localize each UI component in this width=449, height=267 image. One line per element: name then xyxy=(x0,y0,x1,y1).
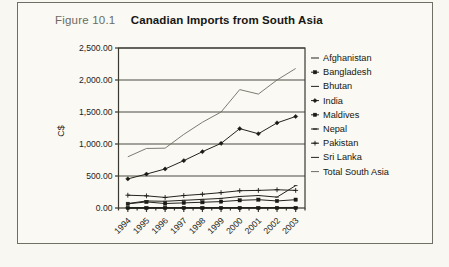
data-point-marker xyxy=(275,199,278,202)
legend-item[interactable]: India xyxy=(311,96,344,106)
x-axis-ticks: 1994199519961997199819992000200120022003 xyxy=(112,208,305,236)
data-point-marker xyxy=(126,177,130,181)
data-point-marker xyxy=(219,200,222,203)
data-point-marker xyxy=(313,141,318,146)
data-point-marker xyxy=(201,201,204,204)
data-point-marker xyxy=(163,167,167,171)
data-point-marker xyxy=(200,192,205,197)
legend-item[interactable]: Pakistan xyxy=(311,138,358,148)
chart-legend: AfghanistanBangladeshBhutanIndiaMaldives… xyxy=(311,53,390,177)
legend-label: Sri Lanka xyxy=(323,152,363,162)
figure-page: Figure 10.1 Canadian Imports from South … xyxy=(0,0,449,267)
x-tick-label: 1994 xyxy=(112,215,133,236)
x-tick-label: 2001 xyxy=(243,215,264,236)
data-point-marker xyxy=(182,201,185,204)
data-series xyxy=(125,187,298,199)
y-tick-label: 1,000.00 xyxy=(79,139,113,149)
plot-area-frame xyxy=(119,48,306,208)
x-tick-label: 1999 xyxy=(205,215,226,236)
legend-item[interactable]: Bhutan xyxy=(311,81,352,91)
data-point-marker xyxy=(275,121,279,125)
x-tick-label: 2000 xyxy=(224,215,245,236)
data-point-marker xyxy=(313,71,316,74)
legend-label: Bangladesh xyxy=(323,67,372,77)
legend-item[interactable]: Total South Asia xyxy=(311,167,390,177)
data-point-marker xyxy=(144,193,149,198)
legend-label: Afghanistan xyxy=(323,53,372,63)
data-point-marker xyxy=(275,187,280,192)
data-point-marker xyxy=(313,99,317,103)
data-point-marker xyxy=(182,159,186,163)
data-point-marker xyxy=(125,193,130,198)
data-point-marker xyxy=(219,190,224,195)
data-point-marker xyxy=(256,132,260,136)
x-tick-label: 1995 xyxy=(131,215,152,236)
chart-svg: 0.00500.001,000.001,500.002,000.002,500.… xyxy=(0,0,449,267)
legend-label: Nepal xyxy=(323,124,347,134)
data-point-marker xyxy=(181,193,186,198)
data-series xyxy=(126,114,298,181)
y-axis-title: C$ xyxy=(56,125,66,137)
y-tick-label: 0.00 xyxy=(96,203,113,213)
legend-label: India xyxy=(323,96,344,106)
data-point-marker xyxy=(294,114,298,118)
legend-label: Maldives xyxy=(323,110,360,120)
data-point-marker xyxy=(294,198,297,201)
data-point-marker xyxy=(256,188,261,193)
plot-frame xyxy=(119,48,306,208)
legend-item[interactable]: Bangladesh xyxy=(311,67,372,77)
x-tick-label: 1996 xyxy=(149,215,170,236)
data-point-marker xyxy=(257,198,260,201)
legend-label: Bhutan xyxy=(323,81,352,91)
x-tick-label: 2002 xyxy=(261,215,282,236)
legend-label: Pakistan xyxy=(323,138,358,148)
y-axis-ticks: 0.00500.001,000.001,500.002,000.002,500.… xyxy=(79,43,118,213)
legend-item[interactable]: Maldives xyxy=(311,110,360,120)
data-point-marker xyxy=(163,195,168,200)
data-series-group xyxy=(125,68,298,209)
data-point-marker xyxy=(163,202,166,205)
x-tick-label: 2003 xyxy=(280,215,301,236)
legend-item[interactable]: Nepal xyxy=(311,124,347,134)
y-tick-label: 500.00 xyxy=(86,171,113,181)
legend-item[interactable]: Afghanistan xyxy=(311,53,372,63)
y-tick-label: 2,500.00 xyxy=(79,43,113,53)
data-point-marker xyxy=(313,113,316,116)
series-path xyxy=(128,116,296,178)
x-tick-label: 1998 xyxy=(187,215,208,236)
data-point-marker xyxy=(238,199,241,202)
gridlines xyxy=(119,48,306,176)
data-point-marker xyxy=(237,188,242,193)
data-point-marker xyxy=(293,188,298,193)
x-tick-label: 1997 xyxy=(168,215,189,236)
series-path xyxy=(128,200,296,204)
y-tick-label: 2,000.00 xyxy=(79,75,113,85)
data-point-marker xyxy=(200,150,204,154)
y-tick-label: 1,500.00 xyxy=(79,107,113,117)
legend-item[interactable]: Sri Lanka xyxy=(311,152,363,162)
legend-label: Total South Asia xyxy=(323,167,390,177)
line-chart: 0.00500.001,000.001,500.002,000.002,500.… xyxy=(0,0,449,267)
